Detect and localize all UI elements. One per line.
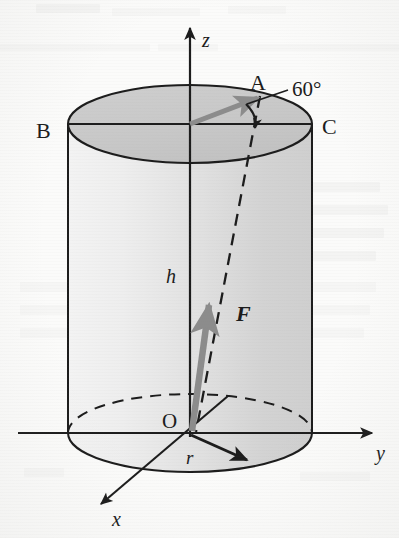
figure-page: z y x 60° F r h A B C O <box>0 0 399 538</box>
height-label-h: h <box>166 265 176 287</box>
radius-label-r: r <box>186 447 194 468</box>
z-axis-label: z <box>201 29 210 51</box>
y-axis-label: y <box>374 442 385 465</box>
cylinder-diagram: z y x 60° F r h A B C O <box>0 0 399 538</box>
point-label-A: A <box>250 70 266 95</box>
point-label-B: B <box>36 118 51 143</box>
vector-F-label: F <box>235 301 251 326</box>
x-axis-label: x <box>111 508 121 530</box>
point-label-O: O <box>162 409 177 433</box>
point-label-C: C <box>322 114 337 139</box>
angle-label-60: 60° <box>292 77 321 101</box>
